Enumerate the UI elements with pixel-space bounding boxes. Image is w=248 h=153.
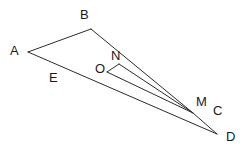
vertex-label-M: M [196, 95, 207, 108]
vertex-label-D: D [226, 130, 235, 143]
vertex-label-A: A [10, 44, 19, 57]
vertex-label-N: N [111, 49, 120, 62]
vertex-label-B: B [80, 8, 89, 21]
figure-canvas [0, 0, 248, 153]
vertex-label-O: O [95, 62, 105, 75]
vertex-label-E: E [49, 71, 58, 84]
vertex-label-C: C [213, 104, 222, 117]
figure-background [0, 0, 248, 153]
geometry-figure: B A N O E M C D [0, 0, 248, 153]
